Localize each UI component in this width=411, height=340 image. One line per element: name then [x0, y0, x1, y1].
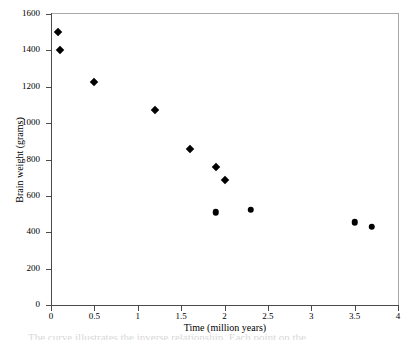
y-tick	[46, 160, 51, 161]
x-tick-label: 1	[123, 312, 153, 321]
x-tick-label: 3	[296, 312, 326, 321]
figure-caption-remnant: The curve illustrates the inverse relati…	[28, 331, 388, 340]
x-tick-label: 4	[383, 312, 411, 321]
data-point-circle	[351, 219, 358, 226]
data-point-circle	[369, 224, 376, 231]
x-tick-label: 2.5	[253, 312, 283, 321]
data-point-circle	[247, 206, 254, 213]
y-axis-title: Brain weight (grams)	[14, 117, 25, 203]
data-point-circle	[213, 209, 220, 216]
y-axis-spine	[51, 13, 52, 306]
x-tick-label: 2	[210, 312, 240, 321]
y-tick	[46, 232, 51, 233]
x-tick-label: 0	[36, 312, 66, 321]
y-tick	[46, 50, 51, 51]
y-tick	[46, 269, 51, 270]
plot-frame-right	[398, 13, 399, 306]
y-tick	[46, 14, 51, 15]
y-tick	[46, 196, 51, 197]
scatter-plot-figure: 02004006008001000120014001600 00.511.522…	[0, 0, 411, 340]
y-axis-title-wrapper: Brain weight (grams)	[14, 0, 26, 305]
x-tick-label: 1.5	[166, 312, 196, 321]
plot-frame-top	[51, 13, 399, 14]
y-tick	[46, 123, 51, 124]
plot-area	[51, 14, 398, 305]
x-tick-label: 3.5	[340, 312, 370, 321]
y-tick	[46, 87, 51, 88]
x-tick-label: 0.5	[79, 312, 109, 321]
